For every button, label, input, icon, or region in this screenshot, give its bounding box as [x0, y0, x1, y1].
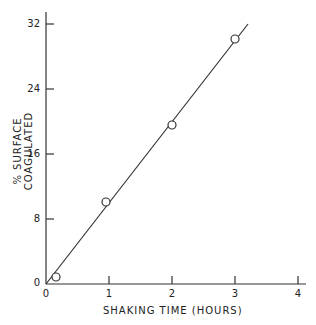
y-axis-label: % SURFACE COAGULATED	[12, 86, 34, 216]
fit-line	[46, 24, 248, 284]
x-tick-label: 2	[164, 288, 180, 299]
chart-plot-area	[0, 0, 316, 325]
x-axis-label: SHAKING TIME (HOURS)	[103, 305, 243, 316]
y-tick-label: 0	[20, 277, 40, 288]
x-tick-label: 0	[38, 288, 54, 299]
data-point	[52, 273, 60, 281]
x-tick-label: 4	[290, 288, 306, 299]
x-tick-label: 1	[101, 288, 117, 299]
y-tick-label: 32	[20, 18, 40, 29]
x-tick-label: 3	[227, 288, 243, 299]
data-point	[168, 121, 176, 129]
data-point	[102, 198, 110, 206]
data-point	[231, 35, 239, 43]
